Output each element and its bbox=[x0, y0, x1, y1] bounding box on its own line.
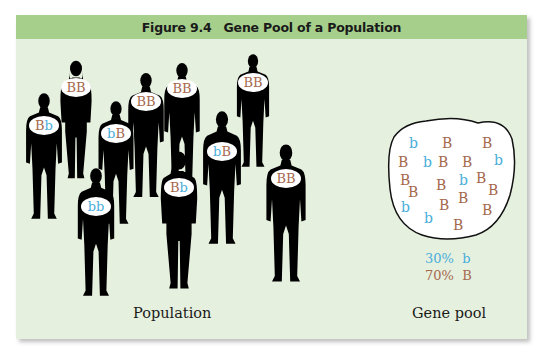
allele-B: B bbox=[453, 218, 463, 232]
genotype-label: BB bbox=[238, 73, 268, 92]
genotype-label: bB bbox=[101, 124, 131, 143]
genotype-label: BB bbox=[61, 78, 91, 97]
allele-b: b bbox=[459, 173, 468, 187]
allele-B: B bbox=[476, 171, 486, 185]
legend-B: 70% B bbox=[425, 269, 472, 282]
genotype-label: bB bbox=[207, 142, 237, 161]
person-silhouette bbox=[200, 110, 244, 245]
genotype-label: Bb bbox=[29, 116, 59, 135]
person-silhouette bbox=[24, 92, 64, 220]
allele-B: B bbox=[436, 178, 446, 192]
allele-b: b bbox=[401, 200, 410, 214]
allele-b: b bbox=[423, 155, 432, 169]
allele-B: B bbox=[408, 185, 418, 199]
allele-B: B bbox=[482, 203, 492, 217]
genotype-label: BB bbox=[271, 169, 301, 188]
population-caption: Population bbox=[133, 305, 211, 321]
person-silhouette bbox=[73, 167, 119, 297]
allele-B: B bbox=[488, 183, 498, 197]
genotype-label: bb bbox=[81, 197, 111, 216]
allele-b: b bbox=[494, 153, 503, 167]
allele-B: B bbox=[439, 198, 449, 212]
legend-b: 30% b bbox=[425, 252, 471, 265]
allele-B: B bbox=[442, 136, 452, 150]
figure-title: Gene Pool of a Population bbox=[224, 20, 402, 35]
gene-pool-caption: Gene pool bbox=[412, 305, 486, 321]
allele-b: b bbox=[409, 136, 418, 150]
person-silhouette bbox=[264, 143, 308, 283]
figure-number: Figure 9.4 bbox=[142, 20, 212, 35]
allele-B: B bbox=[458, 191, 468, 205]
genotype-label: Bb bbox=[164, 178, 194, 197]
allele-b: b bbox=[424, 211, 433, 225]
allele-B: B bbox=[482, 136, 492, 150]
allele-B: B bbox=[462, 155, 472, 169]
allele-B: B bbox=[438, 155, 448, 169]
person-silhouette bbox=[158, 150, 200, 290]
genotype-label: BB bbox=[167, 79, 197, 98]
allele-B: B bbox=[398, 155, 408, 169]
figure-header: Figure 9.4 Gene Pool of a Population bbox=[16, 15, 527, 39]
